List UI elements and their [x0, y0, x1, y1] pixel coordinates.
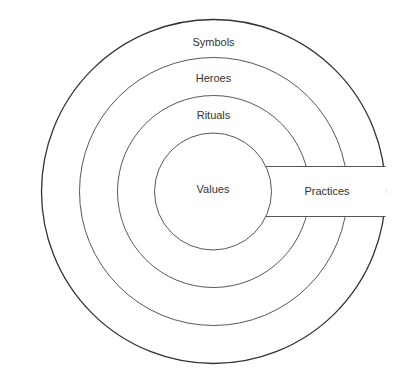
values-label: Values — [197, 183, 230, 195]
heroes-label: Heroes — [196, 72, 232, 84]
onion-diagram: Symbols Heroes Rituals Values Practices — [0, 0, 405, 380]
symbols-label: Symbols — [192, 36, 235, 48]
rituals-label: Rituals — [197, 109, 231, 121]
practices-label: Practices — [304, 185, 350, 197]
